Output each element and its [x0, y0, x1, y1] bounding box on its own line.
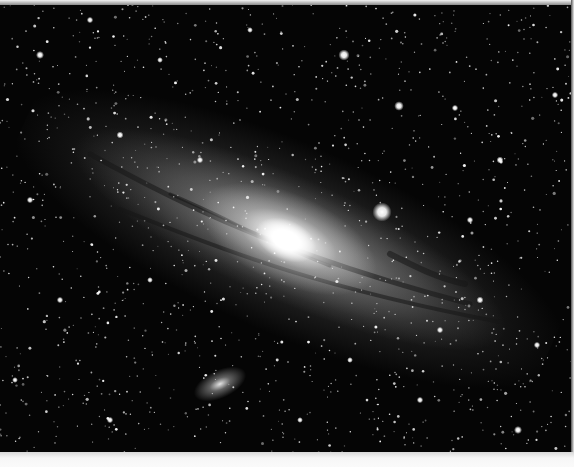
bright-star [496, 156, 503, 163]
bright-star [147, 277, 153, 283]
bright-star [552, 92, 558, 98]
bright-star [534, 342, 540, 348]
top-border [0, 0, 574, 5]
bright-star [437, 327, 443, 333]
bright-star [417, 397, 423, 403]
bright-star [157, 57, 163, 63]
bright-star [394, 101, 404, 111]
bright-star [372, 202, 391, 221]
bright-star [338, 49, 349, 60]
bright-star [514, 426, 522, 434]
bright-star [36, 51, 44, 59]
galaxy-photo [0, 4, 572, 453]
starfield [0, 4, 572, 453]
bright-star [467, 217, 473, 223]
bright-star [27, 197, 33, 203]
bright-star [297, 417, 303, 423]
bright-star [247, 27, 253, 33]
bright-star [87, 17, 93, 23]
bright-star [476, 296, 483, 303]
bright-star [57, 297, 63, 303]
bottom-border [0, 452, 574, 467]
bright-star [452, 105, 458, 111]
bright-star [347, 357, 353, 363]
bright-star [197, 157, 203, 163]
bright-star [12, 377, 18, 383]
bright-star [107, 417, 113, 423]
bright-star [116, 131, 123, 138]
